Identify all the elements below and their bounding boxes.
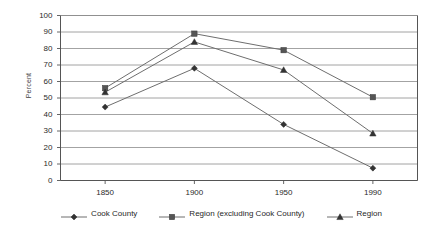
x-tick-marks: [105, 181, 373, 185]
legend-marker-diamond-icon: [61, 208, 87, 218]
y-tick-label: 80: [31, 45, 53, 53]
y-tick-label: 30: [31, 127, 53, 135]
legend-label: Region (excluding Cook County): [189, 209, 304, 218]
series-lines: [105, 34, 373, 168]
plot-area: [0, 0, 443, 232]
y-tick-label: 20: [31, 144, 53, 152]
x-tick-label: 1850: [85, 189, 125, 197]
y-tick-label: 70: [31, 61, 53, 69]
gridlines: [61, 16, 418, 181]
legend-entry-cook-county[interactable]: Cook County: [61, 208, 137, 218]
y-tick-label: 0: [31, 177, 53, 185]
y-tick-marks: [57, 16, 61, 181]
legend-marker-triangle-icon: [327, 208, 353, 218]
x-tick-label: 1950: [264, 189, 304, 197]
legend-entry-region[interactable]: Region: [327, 208, 382, 218]
legend-label: Cook County: [91, 209, 137, 218]
x-tick-label: 1900: [174, 189, 214, 197]
line-chart: Percent 0102030405060708090100 185019001…: [0, 0, 443, 232]
y-tick-label: 60: [31, 78, 53, 86]
y-tick-label: 50: [31, 94, 53, 102]
y-tick-label: 90: [31, 28, 53, 36]
x-tick-label: 1990: [353, 189, 393, 197]
y-tick-label: 10: [31, 160, 53, 168]
chart-legend: Cook CountyRegion (excluding Cook County…: [0, 204, 443, 222]
legend-label: Region: [357, 209, 382, 218]
y-tick-label: 40: [31, 111, 53, 119]
legend-entry-region-excluding-cook-county[interactable]: Region (excluding Cook County): [159, 208, 304, 218]
legend-marker-square-icon: [159, 208, 185, 218]
y-tick-label: 100: [31, 12, 53, 20]
